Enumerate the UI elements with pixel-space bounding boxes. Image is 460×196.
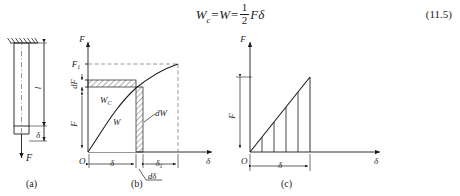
label-origin-b: O (79, 156, 86, 166)
label-axis-y-c: F (239, 34, 246, 44)
equation-lhs: Wc (196, 7, 211, 22)
figure-a-diagram (8, 38, 48, 158)
equation-equals-2: = (230, 7, 239, 22)
equation-line: Wc=W= 1 2 Fδ (0, 2, 460, 26)
label-force-a: F (25, 152, 33, 163)
label-length-a: l (33, 86, 43, 89)
caption-c: (c) (281, 178, 292, 189)
label-axis-y-b: F (78, 34, 85, 44)
label-axis-x-c: δ (374, 156, 379, 166)
label-axis-x-b: δ (206, 156, 211, 166)
work-area-W (88, 91, 136, 152)
fraction-denominator: 2 (240, 14, 250, 27)
label-dW: dW (155, 108, 169, 118)
figure-c-diagram (236, 42, 380, 171)
figure-group: l δ F F δ O F1 dF F WC W dW δ δ1 dδ F δ … (0, 30, 460, 196)
equation-number: (11.5) (426, 8, 452, 20)
label-ddelta-b: dδ (148, 171, 157, 181)
caption-a: (a) (26, 178, 37, 189)
fixed-support-hatching (8, 38, 39, 43)
fraction-numerator: 1 (240, 2, 250, 14)
label-delta-c: δ (278, 160, 283, 170)
caption-b: (b) (131, 178, 143, 189)
label-complementary-work: WC (100, 95, 113, 106)
equation-equals-1: = (210, 7, 219, 22)
linear-force-line (250, 77, 310, 152)
label-F-dimension-b: F (69, 121, 79, 128)
label-elongation-a: δ (36, 130, 41, 140)
equation-rhs: Fδ (250, 7, 264, 22)
label-force-c: F (227, 113, 237, 120)
label-F1-b: F1 (71, 59, 81, 70)
dW-leader (144, 114, 155, 122)
label-delta1-b: δ1 (155, 158, 162, 169)
label-dF-b: dF (69, 78, 79, 88)
strip-lines (262, 92, 298, 152)
equation-mid: W (219, 7, 230, 22)
label-delta-b: δ (110, 158, 115, 168)
dF-strip (88, 80, 136, 87)
equation-fraction: 1 2 (240, 2, 250, 26)
figure-b-diagram (82, 42, 212, 180)
label-origin-c: O (241, 156, 248, 166)
dW-strip (136, 87, 143, 152)
